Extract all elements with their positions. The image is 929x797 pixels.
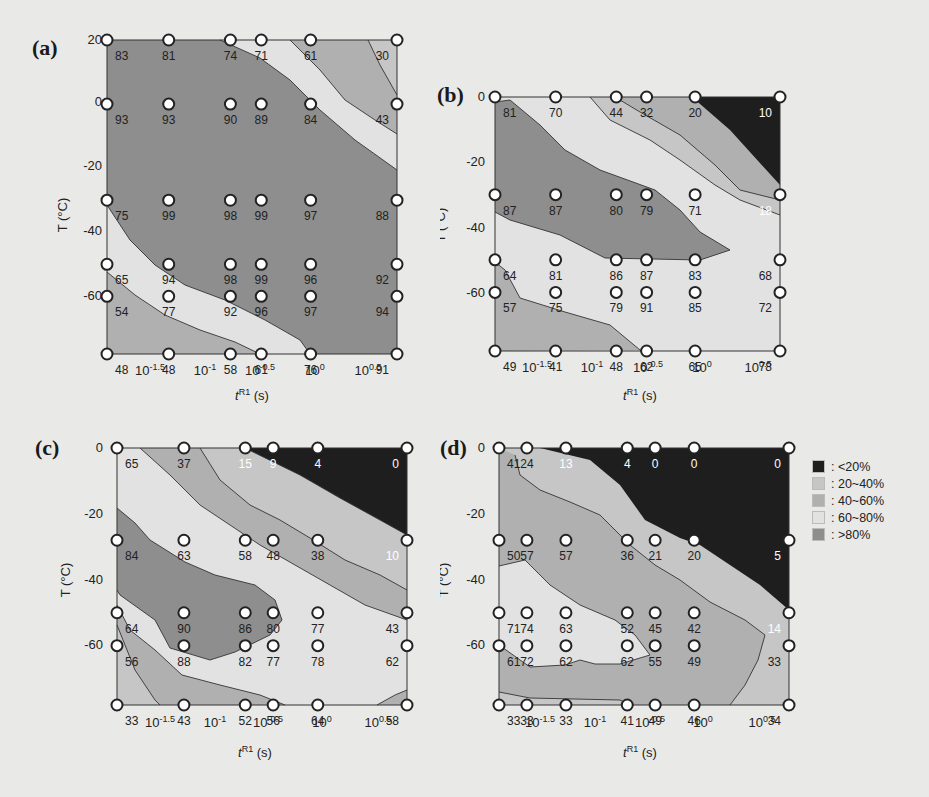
data-value-label: 61 xyxy=(507,655,521,669)
data-value-label: 14 xyxy=(768,622,782,636)
data-value-label: 9 xyxy=(270,457,277,471)
data-value-label: 48 xyxy=(115,363,129,377)
data-point-marker xyxy=(305,195,316,206)
data-point-marker xyxy=(650,700,661,711)
data-value-label: 63 xyxy=(177,549,191,563)
data-point-marker xyxy=(690,254,701,265)
data-point-marker xyxy=(225,35,236,46)
ytick: -20 xyxy=(466,506,485,521)
data-value-label: 89 xyxy=(255,113,269,127)
data-point-marker xyxy=(784,607,795,618)
data-value-label: 72 xyxy=(759,301,773,315)
y-axis-label: T (°C) xyxy=(55,198,70,233)
data-value-label: 46 xyxy=(688,714,702,728)
data-value-label: 83 xyxy=(115,49,129,63)
data-value-label: 0 xyxy=(652,457,659,471)
data-point-marker xyxy=(641,92,652,103)
data-point-marker xyxy=(650,443,661,454)
data-value-label: 85 xyxy=(688,301,702,315)
data-point-marker xyxy=(178,700,189,711)
data-value-label: 91 xyxy=(376,363,390,377)
x-axis-label: tR1 (s) xyxy=(623,744,657,760)
data-point-marker xyxy=(312,535,323,546)
data-point-marker xyxy=(102,195,113,206)
data-point-marker xyxy=(494,700,505,711)
data-point-marker xyxy=(550,254,561,265)
data-value-label: 36 xyxy=(621,549,635,563)
data-value-label: 88 xyxy=(376,209,390,223)
data-value-label: 18 xyxy=(759,204,773,218)
data-point-marker xyxy=(268,700,279,711)
data-value-label: 43 xyxy=(177,714,191,728)
data-point-marker xyxy=(178,535,189,546)
data-value-label: 94 xyxy=(162,273,176,287)
data-value-label: 33 xyxy=(768,655,782,669)
data-point-marker xyxy=(622,640,633,651)
data-point-marker xyxy=(102,35,113,46)
legend-item: : 40~60% xyxy=(812,492,884,509)
data-value-label: 37 xyxy=(177,457,191,471)
data-value-label: 20 xyxy=(688,549,702,563)
panel-a-chart: 20 0 -20 -40 -60 T (°C) 10-1.5 10-1 10-0… xyxy=(0,0,440,410)
data-value-label: 32 xyxy=(640,106,654,120)
data-point-marker xyxy=(689,443,700,454)
data-value-label: 52 xyxy=(621,622,635,636)
xtick: 10-1 xyxy=(194,362,216,378)
data-value-label: 64 xyxy=(503,269,517,283)
data-value-label: 4 xyxy=(314,457,321,471)
data-value-label: 61 xyxy=(255,363,269,377)
data-point-marker xyxy=(256,349,267,360)
data-point-marker xyxy=(784,640,795,651)
data-value-label: 44 xyxy=(610,106,624,120)
data-value-label: 33 xyxy=(125,714,139,728)
data-point-marker xyxy=(178,640,189,651)
data-value-label: 87 xyxy=(549,204,563,218)
data-point-marker xyxy=(611,287,622,298)
data-value-label: 93 xyxy=(162,113,176,127)
x-axis-label: tR1 (s) xyxy=(238,744,272,760)
data-value-label: 58 xyxy=(386,714,400,728)
ytick: -60 xyxy=(466,285,485,300)
data-value-label: 0 xyxy=(392,457,399,471)
data-value-label: 5 xyxy=(774,549,781,563)
ytick: 20 xyxy=(88,32,102,47)
data-value-label: 4 xyxy=(624,457,631,471)
data-value-label: 61 xyxy=(304,49,318,63)
data-point-marker xyxy=(102,259,113,270)
data-value-label: 49 xyxy=(648,714,662,728)
data-value-label: 56 xyxy=(266,714,280,728)
data-value-label: 65 xyxy=(688,360,702,374)
data-point-marker xyxy=(268,443,279,454)
data-value-label: 72 xyxy=(520,655,534,669)
data-value-label: 10 xyxy=(386,549,400,563)
data-value-label: 96 xyxy=(255,305,269,319)
data-value-label: 90 xyxy=(224,113,238,127)
data-value-label: 78 xyxy=(311,655,325,669)
data-value-label: 90 xyxy=(177,622,191,636)
xtick: 10-1.5 xyxy=(522,359,552,375)
ytick: 0 xyxy=(95,94,102,109)
data-point-marker xyxy=(641,254,652,265)
data-point-marker xyxy=(312,700,323,711)
data-value-label: 57 xyxy=(520,549,534,563)
data-value-label: 77 xyxy=(162,305,176,319)
data-point-marker xyxy=(102,291,113,302)
data-value-label: 70 xyxy=(549,106,563,120)
data-point-marker xyxy=(490,346,501,357)
data-value-label: 50 xyxy=(507,549,521,563)
data-point-marker xyxy=(521,640,532,651)
data-value-label: 21 xyxy=(648,549,662,563)
data-point-marker xyxy=(312,640,323,651)
data-point-marker xyxy=(641,346,652,357)
data-value-label: 43 xyxy=(386,622,400,636)
data-point-marker xyxy=(402,607,413,618)
data-point-marker xyxy=(650,535,661,546)
data-point-marker xyxy=(560,700,571,711)
data-point-marker xyxy=(163,291,174,302)
ytick: 0 xyxy=(478,89,485,104)
data-value-label: 83 xyxy=(688,269,702,283)
data-point-marker xyxy=(163,35,174,46)
data-point-marker xyxy=(494,640,505,651)
data-point-marker xyxy=(689,607,700,618)
data-value-label: 34 xyxy=(768,714,782,728)
